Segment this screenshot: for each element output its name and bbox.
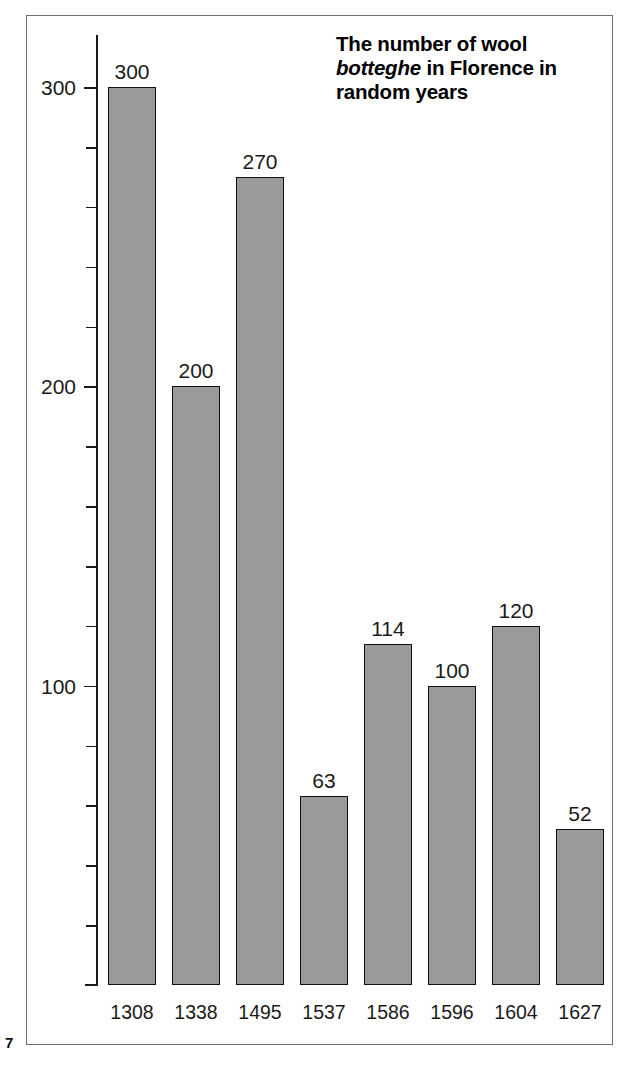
bar-value-label: 114 [350, 618, 426, 639]
bar-value-label: 100 [414, 660, 490, 681]
y-axis-tick-minor [86, 626, 97, 628]
y-axis-tick-major [84, 686, 97, 688]
y-axis-tick-minor [86, 207, 97, 209]
y-axis-tick-minor [86, 446, 97, 448]
y-axis-label: 200 [14, 376, 76, 397]
y-axis-label: 300 [14, 77, 76, 98]
bar-value-label: 270 [222, 151, 298, 172]
y-axis-tick-minor [86, 147, 97, 149]
y-axis-tick-minor [86, 506, 97, 508]
bar-value-label: 200 [158, 360, 234, 381]
bar-value-label: 63 [286, 770, 362, 791]
bar-chart-plot: 100200300 300130820013382701495631537114… [0, 0, 626, 1077]
y-axis-tick-minor [86, 865, 97, 867]
y-axis-tick-minor [86, 566, 97, 568]
bar-value-label: 300 [94, 61, 170, 82]
bar [364, 644, 412, 985]
y-axis-tick-major [84, 386, 97, 388]
y-axis-tick-minor [86, 327, 97, 329]
bar [300, 796, 348, 985]
bar [172, 386, 220, 985]
y-axis-tick-minor [86, 805, 97, 807]
x-axis-category-label: 1627 [542, 1003, 618, 1023]
y-axis-tick-minor [86, 746, 97, 748]
y-axis-line [96, 35, 98, 986]
y-axis-tick-major [84, 87, 97, 89]
bar-value-label: 52 [542, 803, 618, 824]
y-axis-label: 100 [14, 676, 76, 697]
y-axis-tick-minor [86, 267, 97, 269]
y-axis-baseline-foot [85, 984, 97, 986]
bar [236, 177, 284, 985]
y-axis-tick-minor [86, 925, 97, 927]
bar [492, 626, 540, 985]
bar-value-label: 120 [478, 600, 554, 621]
bar [428, 686, 476, 985]
bar [108, 87, 156, 985]
bar [556, 829, 604, 985]
